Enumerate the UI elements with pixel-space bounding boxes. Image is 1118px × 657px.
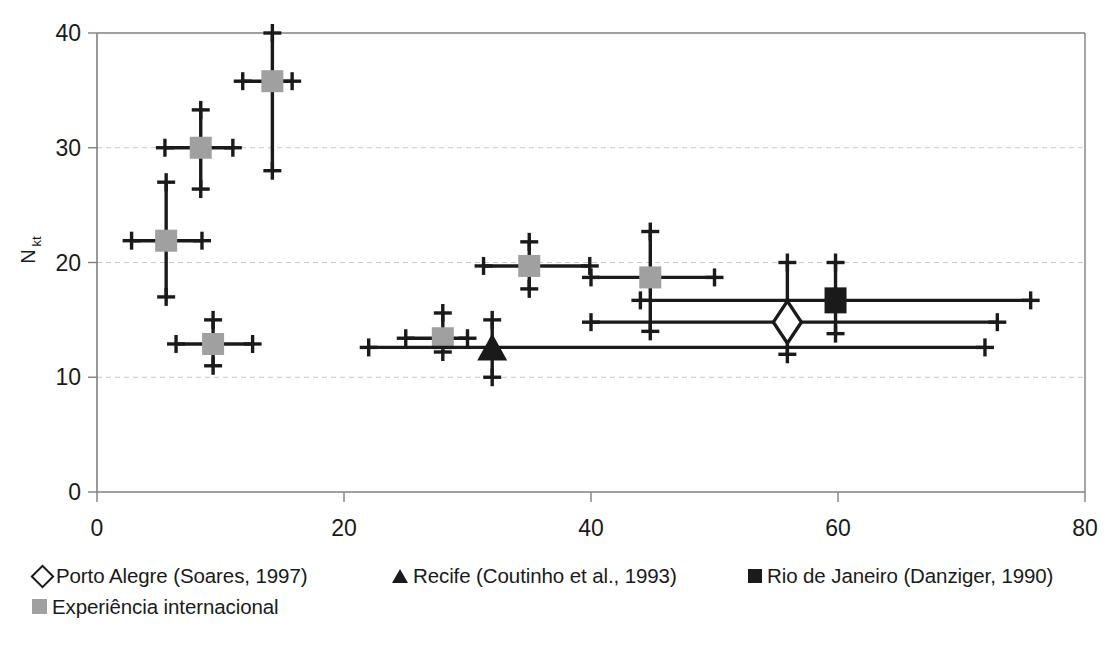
error-bar-cap [641, 322, 659, 340]
error-bar-cap [827, 325, 845, 343]
data-point-group [123, 173, 211, 306]
legend-item-experiencia: Experiência internacional [32, 597, 279, 618]
data-point-group [397, 304, 477, 361]
legend-label-rio: Rio de Janeiro (Danziger, 1990) [767, 566, 1053, 587]
error-bar-cap [582, 313, 600, 331]
marker-square-gray [261, 70, 283, 92]
error-bar-cap [778, 254, 796, 272]
legend-label-recife: Recife (Coutinho et al., 1993) [413, 566, 677, 587]
data-point-group [234, 24, 301, 180]
legend-item-recife: Recife (Coutinho et al., 1993) [392, 566, 722, 587]
legend-label-experiencia: Experiência internacional [52, 597, 279, 618]
legend-row-1: Porto Alegre (Soares, 1997) Recife (Cout… [0, 566, 1118, 587]
error-bar-cap [520, 280, 538, 298]
legend-row-2: Experiência internacional [0, 597, 1118, 618]
error-bar-cap [434, 304, 452, 322]
svg-text:kt: kt [29, 236, 44, 247]
error-bar-cap [483, 368, 501, 386]
error-bar-cap [631, 291, 649, 309]
x-tick-label: 80 [1072, 515, 1098, 541]
error-bar-cap [193, 232, 211, 250]
y-tick-label: 0 [68, 479, 81, 505]
error-bar-cap [204, 357, 222, 375]
error-bar-cap [641, 223, 659, 241]
data-point-group [631, 254, 1039, 343]
error-bar-cap [192, 101, 210, 119]
chart-figure: 010203040020406080IP (%)Nkt Porto Alegre… [0, 0, 1118, 657]
y-axis-title: Nkt [17, 236, 44, 264]
square-black-icon [748, 569, 762, 583]
y-tick-label: 20 [55, 250, 81, 276]
error-bar-cap [244, 335, 262, 353]
data-point-group [475, 233, 599, 298]
error-bar-cap [582, 268, 600, 286]
x-tick-label: 40 [578, 515, 604, 541]
legend-item-rio: Rio de Janeiro (Danziger, 1990) [748, 566, 1053, 587]
scatter-plot-canvas: 010203040020406080IP (%)Nkt [0, 0, 1118, 560]
error-bar-cap [976, 338, 994, 356]
error-bar-cap [224, 139, 242, 157]
x-axis-title: IP (%) [563, 558, 618, 560]
error-bar-cap [520, 233, 538, 251]
x-tick-label: 0 [91, 515, 104, 541]
svg-text:N: N [17, 249, 39, 263]
error-bar-cap [204, 311, 222, 329]
error-bar-cap [988, 313, 1006, 331]
data-points-layer [123, 24, 1040, 386]
diamond-open-icon [30, 564, 54, 588]
chart-legend: Porto Alegre (Soares, 1997) Recife (Cout… [0, 566, 1118, 656]
error-bar-cap [156, 139, 174, 157]
y-tick-label: 10 [55, 364, 81, 390]
x-tick-label: 60 [825, 515, 851, 541]
error-bar-cap [157, 173, 175, 191]
error-bar-cap [123, 232, 141, 250]
error-bar-cap [397, 329, 415, 347]
data-point-group [167, 311, 262, 375]
axis-tick-labels: 010203040020406080IP (%)Nkt [17, 20, 1098, 560]
error-bar-cap [483, 311, 501, 329]
error-bar-cap [157, 288, 175, 306]
error-bar-cap [167, 335, 185, 353]
error-bar-cap [234, 72, 252, 90]
error-bar-cap [827, 254, 845, 272]
marker-diamond-open [773, 301, 801, 343]
marker-square-gray [155, 230, 177, 252]
error-bar-cap [192, 180, 210, 198]
x-tick-label: 20 [331, 515, 357, 541]
marker-square-black [825, 287, 847, 313]
square-gray-icon [32, 599, 47, 614]
legend-item-porto-alegre: Porto Alegre (Soares, 1997) [32, 566, 352, 587]
triangle-black-icon [392, 569, 408, 583]
marker-square-gray [202, 333, 224, 355]
error-bar-cap [263, 24, 281, 42]
y-tick-label: 30 [55, 135, 81, 161]
legend-label-porto-alegre: Porto Alegre (Soares, 1997) [56, 566, 307, 587]
marker-square-gray [190, 137, 212, 159]
marker-square-gray [639, 266, 661, 288]
error-bar-cap [263, 162, 281, 180]
error-bar-cap [360, 338, 378, 356]
error-bar-cap [283, 72, 301, 90]
error-bar-cap [459, 329, 477, 347]
marker-square-gray [518, 255, 540, 277]
error-bar-cap [706, 268, 724, 286]
error-bar-cap [1022, 291, 1040, 309]
error-bar-cap [475, 257, 493, 275]
y-tick-label: 40 [55, 20, 81, 46]
